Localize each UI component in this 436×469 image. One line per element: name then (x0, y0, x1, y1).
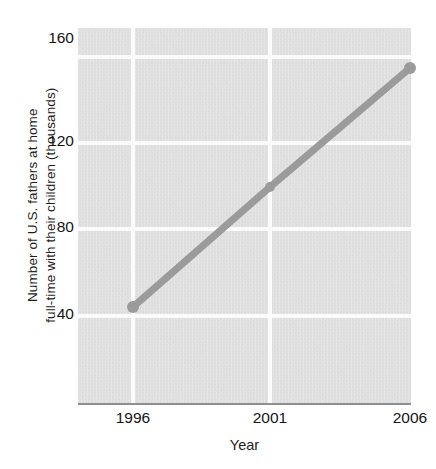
y-axis-title-line-2: full-time with their children (thousands… (43, 87, 61, 322)
x-tick-label-1996: 1996 (98, 410, 168, 426)
x-tick-label-2006: 2006 (375, 410, 436, 426)
y-axis-title-line-1: Number of U.S. fathers at home (25, 87, 43, 322)
y-axis-title: Number of U.S. fathers at home full-time… (8, 0, 78, 410)
data-point-2006 (404, 62, 416, 74)
data-point-2001 (265, 182, 275, 192)
y-tick-label-120: 120 (30, 133, 74, 149)
x-axis-line (78, 403, 411, 405)
y-tick-label-80: 80 (30, 219, 74, 235)
y-tick-label-40: 40 (30, 306, 74, 322)
x-tick-label-2001: 2001 (235, 410, 305, 426)
plot-area (78, 28, 411, 404)
x-axis-title: Year (78, 437, 411, 453)
data-point-1996 (127, 301, 139, 313)
line-chart-figure: Number of U.S. fathers at home full-time… (0, 0, 436, 469)
data-series-line (78, 28, 411, 404)
y-tick-label-160: 160 (30, 30, 74, 46)
